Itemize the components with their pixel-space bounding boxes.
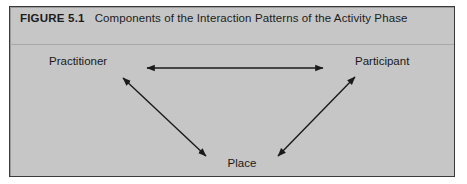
figure-box: FIGURE 5.1Components of the Interaction … bbox=[9, 6, 455, 177]
arrow-practitioner-place bbox=[123, 78, 206, 156]
interaction-pattern-diagram bbox=[10, 7, 454, 176]
node-label-participant: Participant bbox=[355, 55, 409, 68]
node-label-practitioner: Practitioner bbox=[49, 55, 107, 68]
arrow-place-participant bbox=[278, 77, 355, 156]
node-label-place: Place bbox=[214, 157, 270, 170]
